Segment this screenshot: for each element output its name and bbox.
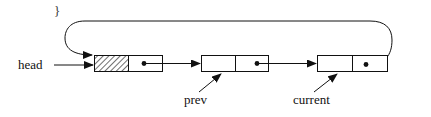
current-arrow	[314, 74, 337, 92]
head-label: head	[18, 58, 43, 71]
current-label: current	[293, 93, 330, 106]
linked-list-diagram	[0, 0, 431, 117]
brace-glyph: }	[54, 4, 60, 17]
pointer-dot-icon	[364, 62, 369, 67]
node3	[318, 56, 388, 72]
prev-arrow	[199, 74, 221, 92]
prev-label: prev	[184, 93, 207, 106]
